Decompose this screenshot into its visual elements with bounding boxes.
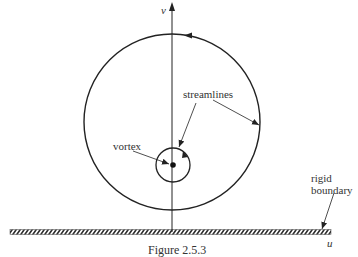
streamlines-label: streamlines <box>183 88 233 100</box>
v-axis-label: v <box>161 4 166 16</box>
streamline-leader-outer <box>213 100 259 125</box>
u-axis-label: u <box>327 237 333 249</box>
boundary-label: boundary <box>311 184 353 196</box>
rigid-label: rigid <box>311 172 332 184</box>
figure-caption: Figure 2.5.3 <box>148 244 206 256</box>
boundary-leader-arrow <box>322 193 334 229</box>
streamline-leader-inner <box>179 103 196 147</box>
vortex-label: vortex <box>113 140 141 152</box>
vortex-point <box>170 162 176 168</box>
rigid-boundary <box>10 230 331 235</box>
flow-direction-arrow-icon <box>184 33 192 39</box>
v-axis-arrowhead-icon <box>169 2 175 11</box>
vortex-leader-arrow <box>133 151 169 164</box>
